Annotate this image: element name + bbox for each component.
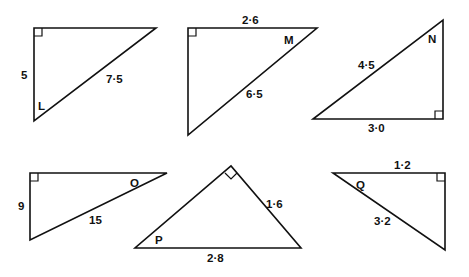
side-label: 2·8: [207, 252, 224, 264]
angle-label: P: [155, 234, 163, 246]
triangle-q: 1·2 Q 3·2: [333, 159, 445, 250]
right-angle-marker-icon: [435, 111, 443, 119]
angle-label: L: [38, 100, 45, 112]
triangle-o-outline: [30, 173, 167, 240]
side-label: 7·5: [106, 73, 123, 85]
triangle-n: N 4·5 3·0: [313, 20, 443, 134]
side-label: 2·6: [242, 14, 259, 26]
side-label: 9: [18, 200, 24, 212]
triangle-l-outline: [34, 28, 156, 121]
side-label: 1·2: [394, 159, 411, 171]
triangle-l: 5 7·5 L: [21, 28, 156, 121]
triangle-o: O 9 15: [18, 173, 167, 240]
right-angle-marker-icon: [30, 173, 38, 181]
side-label: 3·2: [374, 215, 391, 227]
side-label: 5: [21, 69, 28, 81]
triangle-m: 2·6 M 6·5: [188, 14, 317, 135]
triangles-figure: 5 7·5 L 2·6 M 6·5 N 4·5 3·0 O 9 15 1·6 P…: [0, 0, 469, 277]
angle-label: Q: [356, 179, 365, 191]
right-angle-marker-icon: [225, 173, 237, 179]
side-label: 15: [89, 214, 102, 226]
side-label: 4·5: [358, 59, 375, 71]
side-label: 6·5: [246, 88, 263, 100]
angle-label: N: [428, 33, 436, 45]
right-angle-marker-icon: [188, 28, 196, 36]
side-label: 1·6: [266, 198, 283, 210]
triangle-q-outline: [333, 173, 445, 250]
right-angle-marker-icon: [437, 173, 445, 181]
triangle-n-outline: [313, 20, 443, 119]
side-label: 3·0: [368, 122, 385, 134]
angle-label: O: [130, 177, 139, 189]
angle-label: M: [284, 34, 294, 46]
right-angle-marker-icon: [34, 28, 42, 36]
triangle-m-outline: [188, 28, 317, 135]
triangle-p: 1·6 P 2·8: [135, 166, 301, 264]
